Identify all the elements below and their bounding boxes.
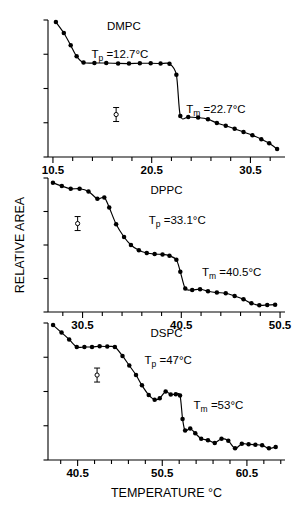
data-point	[219, 437, 224, 442]
data-point	[95, 197, 100, 202]
data-point	[160, 252, 165, 257]
x-tick-label: 50.5	[151, 467, 174, 479]
x-tick-label: 50.5	[269, 319, 292, 331]
data-point	[199, 437, 204, 442]
data-point	[54, 20, 59, 25]
data-point	[267, 446, 272, 451]
transition-subscript: m	[193, 108, 200, 118]
transition-symbol: T	[91, 48, 98, 60]
data-point	[113, 345, 118, 350]
pretransition-annotation: Tp =47°C	[144, 354, 191, 369]
data-point	[193, 431, 198, 436]
data-point	[241, 297, 246, 302]
data-point	[127, 61, 132, 66]
data-point	[178, 393, 183, 398]
data-point	[241, 130, 246, 135]
data-point	[148, 61, 153, 66]
transition-symbol: T	[144, 354, 151, 366]
transition-subscript: m	[209, 271, 216, 281]
data-point	[257, 303, 262, 308]
main-transition-annotation: Tm =22.7°C	[186, 103, 245, 118]
data-point	[198, 287, 203, 292]
data-point	[75, 345, 80, 350]
data-point	[213, 441, 218, 446]
x-tick-label: 10.5	[42, 164, 65, 176]
data-point	[206, 289, 211, 294]
data-point	[249, 301, 254, 306]
data-point	[253, 442, 258, 447]
data-point	[246, 442, 251, 447]
data-point	[232, 294, 237, 299]
data-point	[178, 270, 183, 275]
sample-label: DPPC	[151, 184, 183, 196]
x-tick-label: 60.5	[236, 467, 259, 479]
data-point	[81, 60, 86, 65]
data-point	[77, 186, 82, 191]
data-point	[134, 373, 139, 378]
data-point	[259, 137, 264, 142]
data-point	[190, 288, 195, 293]
panel-dmpc: 10.520.530.5DMPCTp =12.7°CTm =22.7°C	[42, 20, 285, 176]
data-point	[167, 62, 172, 66]
transition-value: =53°C	[208, 399, 244, 411]
x-tick-label: 40.5	[66, 467, 89, 479]
data-point	[120, 354, 125, 359]
data-point	[158, 61, 163, 66]
data-point	[240, 442, 245, 447]
data-point	[232, 127, 237, 132]
transition-value: =40.5°C	[216, 266, 261, 278]
data-point	[138, 61, 143, 66]
data-point	[67, 337, 72, 342]
data-point	[92, 61, 97, 66]
data-point	[183, 428, 188, 433]
data-point	[206, 117, 211, 122]
data-point	[105, 344, 110, 349]
data-point	[163, 389, 168, 394]
data-point	[51, 180, 56, 185]
panel-dspc: 40.550.560.5DSPCTp =47°CTm =53°C	[44, 323, 286, 479]
data-point	[188, 426, 193, 431]
x-tick-label: 30.5	[71, 319, 94, 331]
data-point	[180, 417, 185, 422]
data-point	[215, 121, 220, 126]
data-point	[168, 392, 173, 397]
data-point	[178, 114, 183, 119]
data-point	[82, 345, 87, 350]
main-transition-annotation: Tm =53°C	[194, 399, 244, 414]
figure-root: 10.520.530.5DMPCTp =12.7°CTm =22.7°C30.5…	[0, 0, 297, 514]
data-point	[174, 73, 179, 78]
data-point	[224, 291, 229, 296]
data-point	[174, 392, 179, 397]
data-point	[267, 141, 272, 146]
error-bar	[113, 108, 119, 122]
data-point	[273, 445, 278, 450]
error-bar	[94, 368, 100, 382]
transition-symbol: T	[194, 399, 201, 411]
transition-symbol: T	[149, 214, 156, 226]
sample-label: DMPC	[107, 20, 141, 32]
data-point	[86, 189, 91, 194]
sample-label: DSPC	[151, 327, 183, 339]
transition-subscript: m	[201, 404, 208, 414]
data-point	[226, 439, 231, 444]
data-point	[60, 184, 65, 189]
y-axis-label: RELATIVE AREA	[13, 196, 27, 293]
data-point	[145, 251, 150, 256]
data-point	[140, 383, 145, 388]
data-point	[129, 243, 134, 248]
plot-canvas: 10.520.530.5DMPCTp =12.7°CTm =22.7°C30.5…	[0, 0, 297, 514]
data-point	[51, 323, 56, 328]
data-point	[167, 253, 172, 258]
data-point	[116, 61, 121, 66]
data-point	[206, 438, 211, 443]
data-point	[102, 195, 107, 200]
data-point	[224, 124, 229, 129]
data-point	[59, 330, 64, 335]
data-point	[273, 302, 278, 307]
data-point	[186, 115, 191, 120]
data-point	[157, 396, 162, 401]
data-point	[233, 446, 238, 451]
data-curve	[53, 183, 275, 306]
error-bar	[75, 217, 81, 231]
data-point	[97, 344, 102, 349]
